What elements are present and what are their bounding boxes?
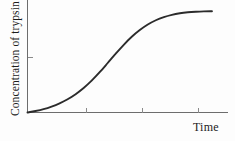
chart-figure: Concentration of trypsin Time <box>0 0 235 141</box>
trypsin-concentration-curve <box>28 11 212 112</box>
y-axis-label-text: Concentration of trypsin <box>9 0 22 116</box>
y-axis-label: Concentration of trypsin <box>9 0 25 116</box>
x-axis-label: Time <box>193 120 219 135</box>
